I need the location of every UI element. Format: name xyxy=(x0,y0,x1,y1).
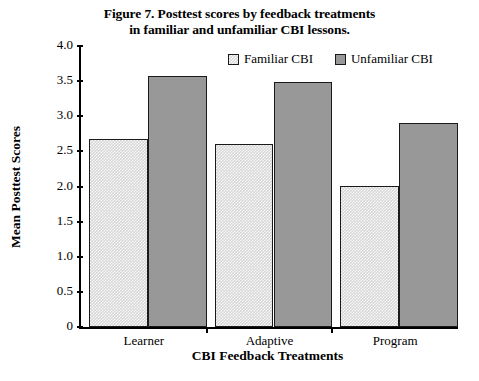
plot-inner: 00.51.01.52.02.53.03.54.0LearnerAdaptive… xyxy=(81,46,458,327)
x-axis-tick-mark xyxy=(331,327,333,333)
x-axis-tick-mark xyxy=(206,327,208,333)
y-axis-tick-mark xyxy=(77,45,83,47)
chart-title-line-1: Figure 7. Posttest scores by feedback tr… xyxy=(0,6,479,22)
chart-title: Figure 7. Posttest scores by feedback tr… xyxy=(0,6,479,38)
x-axis-title: CBI Feedback Treatments xyxy=(79,348,456,364)
y-axis-tick-mark xyxy=(77,326,83,328)
y-axis-tick-mark xyxy=(77,291,83,293)
bar-program-unfamiliar xyxy=(399,123,458,327)
y-axis-tick-label: 0 xyxy=(67,318,74,334)
y-axis-tick-label: 2.5 xyxy=(57,142,73,158)
y-axis-tick-mark xyxy=(77,221,83,223)
chart-title-line-2: in familiar and unfamiliar CBI lessons. xyxy=(0,22,479,38)
y-axis-tick-mark xyxy=(77,256,83,258)
x-axis-category-label: Learner xyxy=(124,333,164,349)
y-axis-tick-mark xyxy=(77,80,83,82)
figure-chart: Figure 7. Posttest scores by feedback tr… xyxy=(0,0,479,381)
x-axis-category-label: Program xyxy=(373,333,418,349)
x-axis-category-label: Adaptive xyxy=(246,333,294,349)
y-axis-tick-label: 1.0 xyxy=(57,248,73,264)
y-axis-tick-label: 0.5 xyxy=(57,283,73,299)
bar-program-familiar xyxy=(340,186,399,327)
y-axis-tick-mark xyxy=(77,115,83,117)
y-axis-tick-mark xyxy=(77,186,83,188)
plot-area: 00.51.01.52.02.53.03.54.0LearnerAdaptive… xyxy=(79,46,458,329)
bar-adaptive-unfamiliar xyxy=(274,82,333,327)
y-axis-tick-label: 2.0 xyxy=(57,178,73,194)
y-axis-title-wrap: Mean Posttest Scores xyxy=(8,46,24,327)
bar-learner-familiar xyxy=(89,139,148,327)
y-axis-tick-label: 4.0 xyxy=(57,37,73,53)
bar-learner-unfamiliar xyxy=(148,76,207,327)
y-axis-tick-mark xyxy=(77,150,83,152)
y-axis-title: Mean Posttest Scores xyxy=(8,126,24,248)
y-axis-tick-label: 1.5 xyxy=(57,213,73,229)
bar-adaptive-familiar xyxy=(215,144,274,327)
y-axis-tick-label: 3.5 xyxy=(57,72,73,88)
y-axis-tick-label: 3.0 xyxy=(57,107,73,123)
